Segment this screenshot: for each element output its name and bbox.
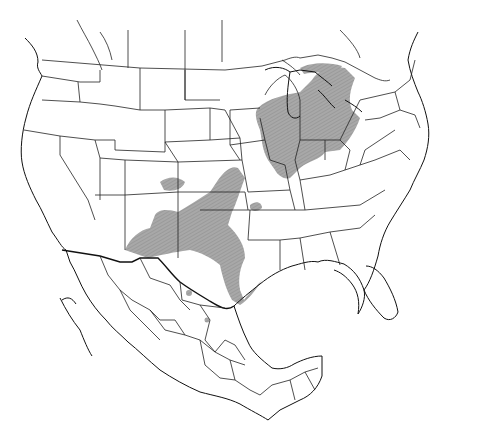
mexico-state-borders (100, 256, 318, 400)
international-borders (42, 20, 390, 308)
range-map (0, 0, 477, 437)
